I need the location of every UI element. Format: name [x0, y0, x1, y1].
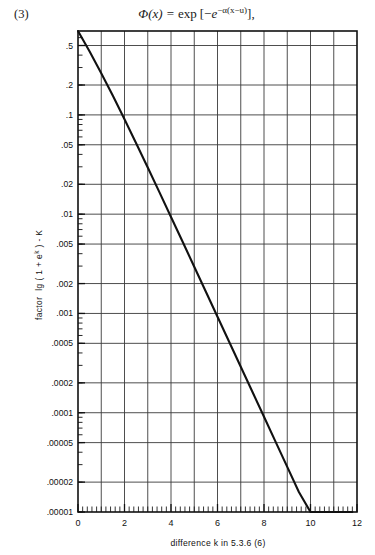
y-axis-title: factorlg ( 1 + ek ) - K — [33, 230, 44, 320]
y-tick-label: .5 — [66, 41, 73, 51]
vertical-gridlines — [101, 31, 334, 512]
y-tick-label: .00002 — [47, 477, 74, 487]
x-axis-title: difference k in 5.3.6 (6) — [170, 538, 265, 548]
data-curve — [78, 31, 352, 512]
y-axis-title-expr-a: lg ( 1 + e — [34, 254, 44, 291]
x-tick-label: 10 — [305, 518, 315, 528]
x-tick-label: 12 — [352, 518, 362, 528]
y-tick-label: .00005 — [47, 438, 74, 448]
y-tick-label: .02 — [61, 179, 73, 189]
svg-text:factorlg ( 1 + ek ) - K: factorlg ( 1 + ek ) - K — [33, 230, 44, 320]
y-tick-label: .0001 — [51, 408, 73, 418]
y-tick-label: .01 — [61, 209, 73, 219]
y-tick-label: .002 — [56, 279, 73, 289]
x-tick-label: 6 — [215, 518, 220, 528]
y-tick-label: .005 — [56, 239, 73, 249]
log-linear-plot: .5.2.1.05.02.01.005.002.001.0005.0002.00… — [0, 0, 375, 555]
y-tick-label: .2 — [66, 80, 73, 90]
y-tick-label: .0002 — [51, 378, 73, 388]
y-axis-title-expr-b: ) - K — [34, 230, 44, 251]
y-axis-major-ticks — [78, 46, 85, 512]
x-tick-label: 4 — [168, 518, 173, 528]
y-axis-title-prefix: factor — [34, 297, 44, 320]
y-tick-label: .0005 — [51, 338, 73, 348]
y-tick-label: .1 — [66, 110, 73, 120]
x-tick-label: 8 — [261, 518, 266, 528]
x-tick-label: 0 — [75, 518, 80, 528]
y-tick-label: .00001 — [47, 507, 74, 517]
x-tick-label: 2 — [122, 518, 127, 528]
figure-container: .5.2.1.05.02.01.005.002.001.0005.0002.00… — [0, 0, 375, 555]
y-tick-label: .001 — [56, 308, 73, 318]
y-axis-tick-labels: .5.2.1.05.02.01.005.002.001.0005.0002.00… — [47, 41, 74, 517]
y-tick-label: .05 — [61, 140, 73, 150]
x-axis-tick-labels: 024681012 — [75, 518, 362, 528]
